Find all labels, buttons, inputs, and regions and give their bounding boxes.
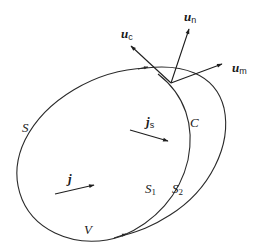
curve-c-s1-arc — [122, 74, 190, 236]
j-s-label: js — [144, 114, 155, 130]
surface-s-label: S — [22, 120, 29, 135]
surface-current-diagram: uc un um js j S C V S1 S2 — [0, 0, 259, 252]
curve-c-label: C — [190, 115, 199, 130]
u-m-label: um — [232, 60, 247, 76]
volume-v-label: V — [84, 222, 94, 237]
surface-s-boundary — [17, 68, 146, 241]
surface-s2-label: S2 — [172, 181, 183, 197]
j-arrow — [55, 185, 94, 194]
surface-s2-arc — [122, 67, 226, 236]
u-m-arrow — [171, 64, 222, 83]
u-c-arrow — [131, 46, 171, 83]
j-label: j — [66, 171, 72, 186]
u-c-label: uc — [121, 26, 133, 42]
u-n-label: un — [184, 9, 196, 25]
orientation-mark-bottom — [114, 234, 126, 238]
u-n-arrow — [171, 29, 189, 83]
j-s-arrow — [130, 130, 168, 141]
surface-s1-label: S1 — [145, 181, 156, 197]
